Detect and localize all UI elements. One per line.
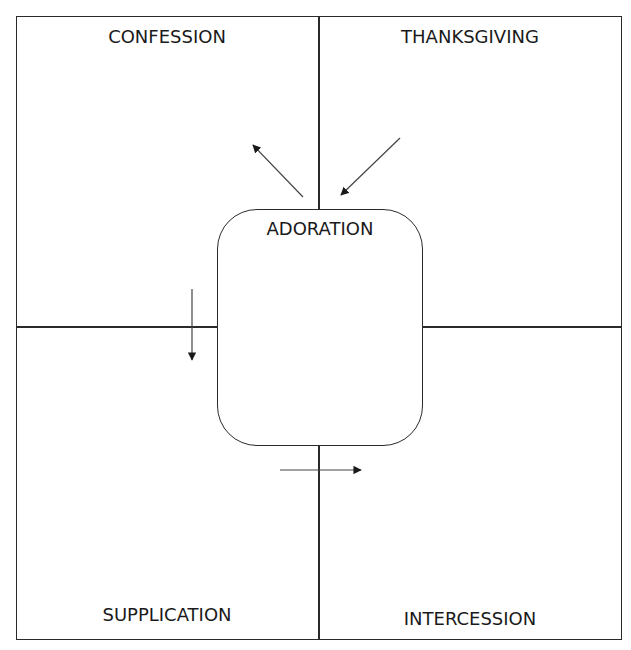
- quadrant-label-supplication: SUPPLICATION: [102, 604, 231, 625]
- center-label-adoration: ADORATION: [218, 218, 422, 239]
- vertical-divider-bottom: [318, 445, 320, 640]
- vertical-divider-top: [318, 16, 320, 210]
- horizontal-divider-right: [422, 326, 622, 328]
- center-box-adoration: ADORATION: [217, 209, 423, 446]
- quadrant-label-confession: CONFESSION: [108, 26, 226, 47]
- quadrant-label-intercession: INTERCESSION: [404, 608, 537, 629]
- horizontal-divider-left: [16, 326, 218, 328]
- quadrant-label-thanksgiving: THANKSGIVING: [401, 26, 539, 47]
